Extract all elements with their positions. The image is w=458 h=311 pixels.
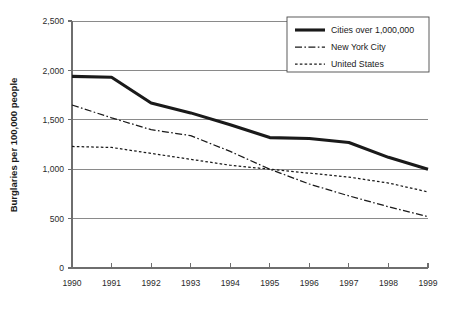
y-tick-label: 1,500 [42,115,64,125]
y-axis-title: Burglaries per 100,000 people [8,78,19,213]
x-tick-label: 1998 [379,278,398,288]
x-axis-ticks-group: 1990199119921993199419951996199719981999 [62,263,437,288]
burglary-rate-line-chart: Burglaries per 100,000 people 05001,0001… [0,0,458,311]
series-line-1 [72,105,428,217]
y-tick-label: 2,500 [42,16,64,26]
x-tick-label: 1991 [102,278,121,288]
x-tick-label: 1992 [142,278,161,288]
x-tick-label: 1994 [221,278,240,288]
y-axis-title-group: Burglaries per 100,000 people [8,78,19,213]
x-tick-label: 1997 [339,278,358,288]
legend-label-0: Cities over 1,000,000 [331,25,414,35]
legend-label-1: New York City [331,42,386,52]
chart-legend: Cities over 1,000,000New York CityUnited… [287,17,429,72]
legend-label-2: United States [331,59,384,69]
x-tick-label: 1996 [300,278,319,288]
x-tick-label: 1999 [418,278,437,288]
x-tick-label: 1990 [62,278,81,288]
series-line-0 [72,76,428,169]
x-tick-label: 1993 [181,278,200,288]
data-series-group [72,76,428,216]
y-axis-ticks-group: 05001,0001,5002,0002,500 [42,16,72,273]
y-tick-label: 2,000 [42,66,64,76]
y-tick-label: 0 [59,263,64,273]
chart-canvas: Burglaries per 100,000 people 05001,0001… [0,0,458,311]
x-tick-label: 1995 [260,278,279,288]
y-tick-label: 1,000 [42,164,64,174]
y-tick-label: 500 [50,214,65,224]
